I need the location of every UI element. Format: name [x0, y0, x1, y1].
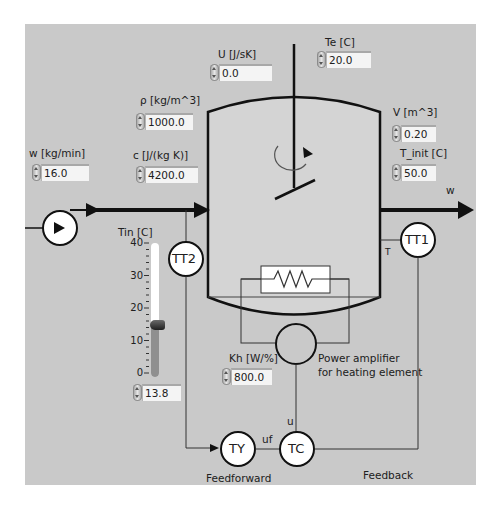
- c-label: c [J/(kg K)]: [133, 149, 188, 161]
- rho-input[interactable]: 1000.0: [145, 113, 193, 130]
- u-control[interactable]: 0.0: [210, 64, 272, 81]
- feedback-label: Feedback: [363, 469, 413, 481]
- t-init-label: T_init [C]: [400, 147, 447, 159]
- slider-tick-10: 10: [123, 335, 143, 346]
- w-spinner-icon[interactable]: [32, 164, 41, 181]
- kh-label: Kh [W/%]: [229, 352, 278, 364]
- slider-tick-20: 20: [123, 302, 143, 313]
- tin-slider-fill: [151, 328, 159, 377]
- u-signal-label: u: [287, 415, 294, 427]
- w-control[interactable]: 16.0: [32, 164, 89, 181]
- tc-label: TC: [288, 442, 304, 456]
- v-spinner-icon[interactable]: [392, 125, 401, 142]
- kh-input[interactable]: 800.0: [231, 368, 272, 385]
- temperature-label: T: [385, 246, 391, 258]
- w-input[interactable]: 16.0: [41, 164, 89, 181]
- te-spinner-icon[interactable]: [317, 51, 326, 68]
- power-amplifier: [276, 324, 316, 364]
- slider-tick-0: 0: [123, 367, 143, 378]
- t-init-control[interactable]: 50.0: [392, 164, 436, 181]
- rho-spinner-icon[interactable]: [136, 113, 145, 130]
- power-amplifier-label-2: for heating element: [318, 366, 422, 378]
- u-input[interactable]: 0.0: [219, 64, 272, 81]
- v-label: V [m^3]: [393, 106, 437, 118]
- outlet-flow-label: w: [446, 184, 455, 196]
- c-spinner-icon[interactable]: [136, 166, 145, 183]
- te-label: Te [C]: [325, 36, 355, 48]
- c-input[interactable]: 4200.0: [145, 166, 198, 183]
- te-control[interactable]: 20.0: [317, 51, 371, 68]
- rho-label: ρ [kg/m^3]: [140, 94, 200, 106]
- slider-tick-40: 40: [123, 237, 143, 248]
- kh-spinner-icon[interactable]: [222, 368, 231, 385]
- te-input[interactable]: 20.0: [326, 51, 371, 68]
- tin-input[interactable]: 13.8: [142, 384, 181, 401]
- t-init-spinner-icon[interactable]: [392, 164, 401, 181]
- ty-label: TY: [229, 442, 245, 456]
- rho-control[interactable]: 1000.0: [136, 113, 193, 130]
- tt2-label: TT2: [172, 252, 196, 266]
- uf-signal-label: uf: [262, 433, 272, 445]
- tt1-label: TT1: [405, 233, 429, 247]
- u-spinner-icon[interactable]: [210, 64, 219, 81]
- power-amplifier-label-1: Power amplifier: [318, 352, 400, 364]
- slider-scale: [143, 240, 151, 380]
- kh-control[interactable]: 800.0: [222, 368, 272, 385]
- v-control[interactable]: 0.20: [392, 125, 436, 142]
- feedforward-label: Feedforward: [206, 472, 271, 484]
- c-control[interactable]: 4200.0: [136, 166, 198, 183]
- tin-slider-thumb[interactable]: [150, 320, 165, 330]
- tin-spinner-icon[interactable]: [133, 384, 142, 401]
- t-init-input[interactable]: 50.0: [401, 164, 436, 181]
- v-input[interactable]: 0.20: [401, 125, 436, 142]
- slider-tick-30: 30: [123, 270, 143, 281]
- tin-control[interactable]: 13.8: [133, 384, 181, 401]
- w-label: w [kg/min]: [29, 147, 85, 159]
- u-label: U [J/sK]: [218, 48, 256, 60]
